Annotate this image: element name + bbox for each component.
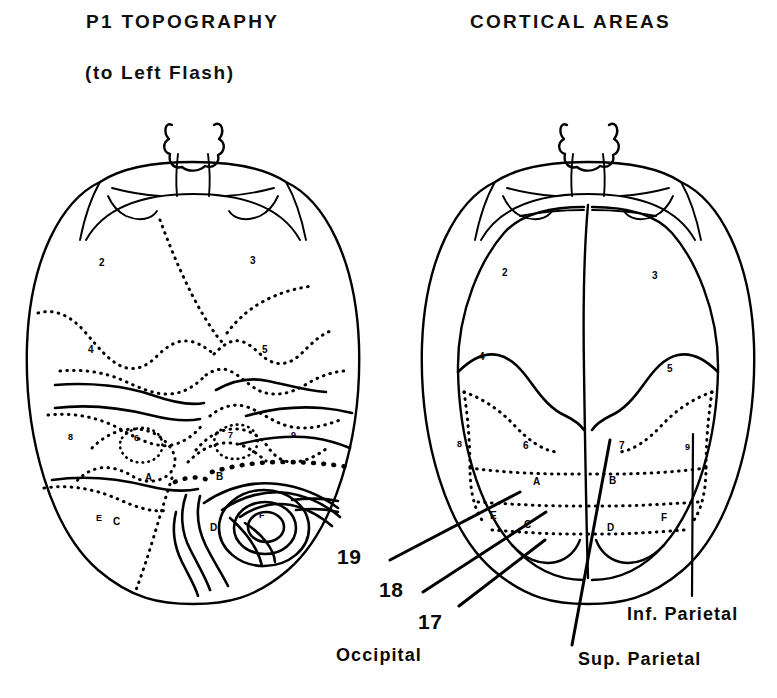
left-map-label-E: E xyxy=(96,514,102,523)
left-map-label-D: D xyxy=(210,523,217,533)
right-map-label-4: 4 xyxy=(479,352,485,362)
right-brain-outline xyxy=(458,205,718,580)
left-map-label-4: 4 xyxy=(88,345,94,355)
annotation-label-17: 17 xyxy=(418,610,442,634)
figure-root: P1 TOPOGRAPHY (to Left Flash) CORTICAL A… xyxy=(0,0,777,698)
right-map-label-E: E xyxy=(490,511,497,521)
right-map-label-5: 5 xyxy=(667,364,673,374)
left-map-label-6: 6 xyxy=(134,434,139,443)
annotation-label-inf-parietal: Inf. Parietal xyxy=(627,604,738,625)
annotation-label-occipital: Occipital xyxy=(336,645,422,666)
right-map-label-8: 8 xyxy=(457,440,462,449)
right-map-label-C: C xyxy=(524,520,531,530)
left-map-label-C: C xyxy=(113,517,120,527)
left-map-label-2: 2 xyxy=(99,258,105,268)
right-map-label-A: A xyxy=(533,477,540,487)
right-map-label-7: 7 xyxy=(619,441,625,451)
left-map-label-3: 3 xyxy=(250,256,256,266)
right-map-label-3: 3 xyxy=(652,271,658,281)
left-map-label-F: F xyxy=(259,511,265,520)
annotation-label-18: 18 xyxy=(379,578,403,602)
left-map-label-B: B xyxy=(216,472,223,482)
left-map-label-7: 7 xyxy=(228,431,233,440)
left-map-label-5: 5 xyxy=(262,345,268,355)
right-map-label-B: B xyxy=(609,476,616,486)
left-map-label-9: 9 xyxy=(291,431,296,440)
left-map-label-8: 8 xyxy=(68,433,73,442)
left-topography-contours xyxy=(38,220,352,596)
leader-line-19 xyxy=(390,492,520,560)
right-map-label-2: 2 xyxy=(502,268,508,278)
left-map-label-A: A xyxy=(145,473,152,483)
right-map-label-6: 6 xyxy=(523,441,529,451)
annotation-label-sup-parietal: Sup. Parietal xyxy=(578,649,701,670)
right-map-label-9: 9 xyxy=(685,443,690,452)
right-map-label-F: F xyxy=(661,513,667,523)
leader-line-17 xyxy=(459,540,545,606)
right-map-label-D: D xyxy=(607,523,614,533)
leader-line-inf-parietal xyxy=(692,434,693,596)
annotation-label-19: 19 xyxy=(337,545,361,569)
